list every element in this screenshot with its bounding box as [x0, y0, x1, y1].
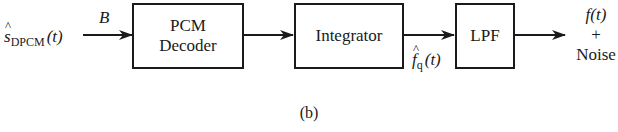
output-label: f(t) + Noise: [566, 5, 618, 65]
input-arg: (t): [47, 27, 63, 46]
output-plus: +: [566, 25, 618, 45]
fq-arg: (t): [425, 50, 441, 69]
input-symbol: s: [4, 27, 11, 47]
bitstream-label: B: [99, 8, 109, 28]
input-signal-label: sDPCM(t): [4, 27, 63, 52]
integrator-block: Integrator: [294, 3, 404, 69]
input-subscript: DPCM: [11, 35, 45, 49]
figure-caption: (b): [0, 104, 618, 122]
output-signal: f(t): [566, 5, 618, 25]
fq-subscript: q: [417, 58, 423, 72]
pcm-decoder-block: PCM Decoder: [132, 3, 244, 69]
fq-symbol: f: [412, 50, 417, 70]
output-noise: Noise: [566, 45, 618, 65]
lpf-label: LPF: [470, 26, 499, 46]
pcm-decoder-line1: PCM: [170, 16, 206, 36]
quantized-signal-label: fq(t): [412, 50, 441, 75]
integrator-label: Integrator: [315, 26, 382, 46]
lpf-block: LPF: [455, 3, 515, 69]
pcm-decoder-line2: Decoder: [159, 36, 217, 56]
